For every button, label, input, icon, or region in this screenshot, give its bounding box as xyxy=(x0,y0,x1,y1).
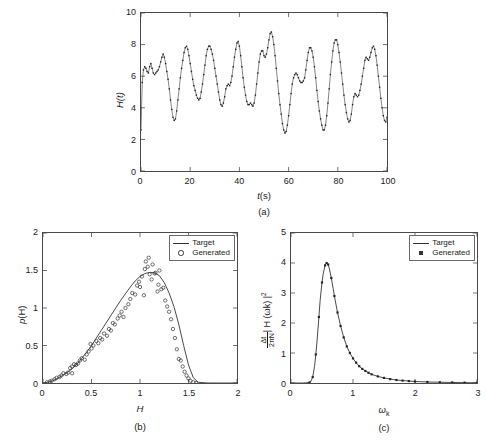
c-y-tick-label: 1 xyxy=(258,349,286,359)
b-x-tick-label: 2 xyxy=(235,388,240,398)
panel-b-x-label-text: H xyxy=(137,403,144,414)
panel-b: TargetGenerated 00.511.52 00.511.52 H p(… xyxy=(4,228,244,442)
c-x-tick-label: 1 xyxy=(350,388,355,398)
panel-c-y-label-fraction: Δt 2πN xyxy=(260,332,276,348)
a-y-tick-label: 2 xyxy=(108,135,136,145)
panel-c-y-label-denominator: 2πN xyxy=(268,332,275,348)
a-x-tick-label: 80 xyxy=(333,176,343,186)
panel-b-caption: (b) xyxy=(134,421,146,432)
a-x-tick-label: 60 xyxy=(284,176,294,186)
panel-b-legend-label: Generated xyxy=(192,248,230,258)
a-y-tick-label: 0 xyxy=(108,167,136,177)
panel-c-y-label-numerator: Δt xyxy=(260,332,268,348)
panel-b-plot-area: TargetGenerated xyxy=(42,232,238,384)
panel-c-legend-item: Target xyxy=(413,238,470,248)
panel-c-legend: TargetGenerated xyxy=(409,235,475,261)
c-y-tick-label: 4 xyxy=(258,257,286,267)
panel-a-y-label-arg: (t) xyxy=(114,92,125,101)
c-x-tick-label: 0 xyxy=(287,388,292,398)
c-x-tick-label: 2 xyxy=(413,388,418,398)
panel-b-y-label: p(H) xyxy=(16,306,27,325)
panel-c-legend-label: Generated xyxy=(432,248,470,258)
panel-b-legend: TargetGenerated xyxy=(169,235,235,261)
panel-c-y-label-exponent: 2 xyxy=(260,292,267,296)
legend-square-marker-icon xyxy=(413,251,429,256)
panel-c: TargetGenerated 0123 012345 ωk Δt 2πN | … xyxy=(246,228,484,442)
panel-a-y-label-var: H xyxy=(114,101,125,108)
a-y-tick-label: 6 xyxy=(108,71,136,81)
figure-container: 020406080100 0246810 t(s) H(t) (a) Targe… xyxy=(0,0,487,444)
c-y-tick-label: 5 xyxy=(258,227,286,237)
b-y-tick-label: 1.5 xyxy=(10,265,38,275)
panel-c-y-label-body: | H (ωk) | xyxy=(262,296,272,332)
a-y-tick-label: 10 xyxy=(108,7,136,17)
panel-c-plot-area: TargetGenerated xyxy=(290,232,478,384)
b-y-tick-label: 0.5 xyxy=(10,341,38,351)
panel-b-legend-item: Target xyxy=(173,238,230,248)
panel-a-plot-area xyxy=(140,12,388,172)
c-x-tick-label: 3 xyxy=(475,388,480,398)
panel-b-x-label: H xyxy=(137,403,144,414)
panel-c-y-label: Δt 2πN | H (ωk) |2 xyxy=(260,292,276,348)
b-y-tick-label: 2 xyxy=(10,227,38,237)
legend-line-icon xyxy=(413,243,429,244)
panel-a: 020406080100 0246810 t(s) H(t) (a) xyxy=(104,8,394,220)
panel-a-x-label: t(s) xyxy=(257,190,271,201)
panel-b-y-label-arg: (H) xyxy=(16,306,27,319)
panel-a-canvas xyxy=(141,13,387,171)
panel-c-caption: (c) xyxy=(378,422,389,433)
panel-a-x-label-unit: (s) xyxy=(260,190,271,201)
a-x-tick-label: 0 xyxy=(137,176,142,186)
b-y-tick-label: 0 xyxy=(10,379,38,389)
b-x-tick-label: 0 xyxy=(39,388,44,398)
b-x-tick-label: 1.5 xyxy=(183,388,196,398)
a-y-tick-label: 8 xyxy=(108,39,136,49)
panel-c-x-label-sub: k xyxy=(386,410,390,417)
a-x-tick-label: 40 xyxy=(234,176,244,186)
panel-c-x-label: ωk xyxy=(379,404,390,417)
a-x-tick-label: 100 xyxy=(380,176,395,186)
a-x-tick-label: 20 xyxy=(185,176,195,186)
panel-b-legend-label: Target xyxy=(192,238,214,248)
c-y-tick-label: 0 xyxy=(258,379,286,389)
panel-b-legend-item: Generated xyxy=(173,248,230,258)
panel-c-legend-item: Generated xyxy=(413,248,470,258)
legend-circle-marker-icon xyxy=(173,250,189,255)
b-x-tick-label: 0.5 xyxy=(85,388,98,398)
panel-a-y-label: H(t) xyxy=(114,92,125,108)
panel-a-caption: (a) xyxy=(258,206,270,217)
panel-c-legend-label: Target xyxy=(432,238,454,248)
panel-b-y-label-var: p xyxy=(16,319,27,324)
b-x-tick-label: 1 xyxy=(137,388,142,398)
legend-line-icon xyxy=(173,243,189,244)
